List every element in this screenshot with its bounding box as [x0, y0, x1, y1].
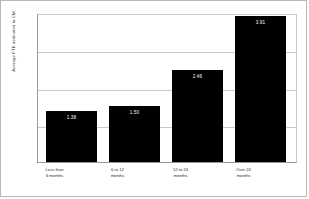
category-label-less-than-6-months: Less than 6 months: [20, 167, 89, 179]
category-label-12-to-24-months: 12 to 24 months: [146, 167, 215, 179]
category-label-line: months: [209, 173, 278, 179]
bar-6-to-12-months[interactable]: 1.50: [109, 106, 160, 162]
bar-value-label: 2.46: [172, 74, 223, 79]
category-label-6-to-12-months: 6 to 12 months: [83, 167, 152, 179]
bar-value-label: 3.91: [235, 20, 286, 25]
bar-over-24-months[interactable]: 3.91: [235, 16, 286, 162]
bar-value-label: 1.38: [46, 115, 97, 120]
category-label-over-24-months: Over 24 months: [209, 167, 278, 179]
y-axis-title: Average FTE dedicated to CM: [11, 0, 16, 102]
bar-12-to-24-months[interactable]: 2.46: [172, 70, 223, 162]
category-label-line: months: [146, 173, 215, 179]
chart-figure: Average FTE dedicated to CM 4 3 2 1 0 1.…: [0, 0, 307, 197]
category-label-line: 6 months: [20, 173, 89, 179]
bar-less-than-6-months[interactable]: 1.38: [46, 111, 97, 162]
category-label-line: months: [83, 173, 152, 179]
bar-value-label: 1.50: [109, 110, 160, 115]
plot-area: 1.38 1.50 2.46 3.91: [37, 14, 297, 163]
